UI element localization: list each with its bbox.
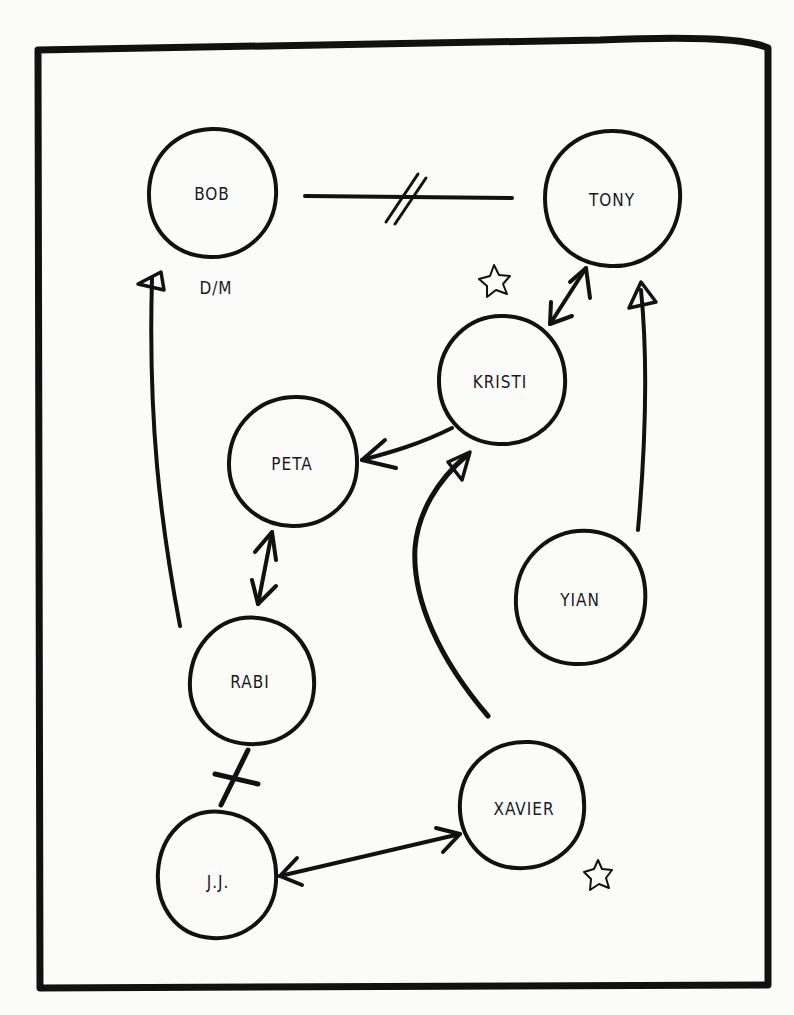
node-rabi[interactable]: RABI [190,618,314,744]
sociogram-canvas: BOB D/M TONY KRISTI PETA YIAN RABI XAVIE… [0,0,794,1015]
edge-bob-tony-conflict [305,174,512,224]
node-jj[interactable]: J.J. [158,812,276,938]
node-kristi[interactable]: KRISTI [439,316,565,444]
node-label: PETA [271,454,312,474]
star-icon [584,860,612,890]
node-yian[interactable]: YIAN [516,531,645,664]
node-label: TONY [588,190,635,210]
edge-rabi-bob [138,272,180,626]
edge-jj-xavier-mutual [280,828,460,885]
node-bob[interactable]: BOB [149,129,276,257]
edge-kristi-tony-mutual [550,268,590,324]
node-label: YIAN [559,590,600,610]
node-label: RABI [230,672,269,692]
node-tony[interactable]: TONY [545,131,680,266]
node-xavier[interactable]: XAVIER [460,742,584,868]
node-peta[interactable]: PETA [229,397,357,526]
bob-annotation: D/M [199,278,232,298]
edge-xavier-kristi [415,452,488,716]
edge-yian-tony [629,282,656,530]
node-label: BOB [194,184,230,204]
node-label: J.J. [206,872,230,892]
node-label: KRISTI [473,372,528,392]
star-icon [479,265,510,297]
edge-kristi-peta [362,428,452,468]
edge-peta-rabi-mutual [252,532,276,604]
node-label: XAVIER [493,799,554,819]
edge-rabi-jj-conflict [215,750,258,805]
